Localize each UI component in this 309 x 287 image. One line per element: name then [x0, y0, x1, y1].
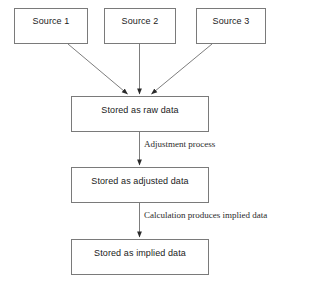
- node-source-2-label: Source 2: [122, 9, 159, 27]
- node-stored-adjusted-data-label: Stored as adjusted data: [91, 168, 188, 187]
- node-stored-raw-data: Stored as raw data: [71, 96, 209, 132]
- edge-label-calculation-produces-implied-data: Calculation produces implied data: [144, 210, 267, 221]
- node-source-1: Source 1: [14, 8, 88, 44]
- node-stored-adjusted-data: Stored as adjusted data: [71, 167, 209, 203]
- edge-label-adjustment-process: Adjustment process: [144, 139, 215, 150]
- node-stored-implied-data-label: Stored as implied data: [94, 240, 186, 259]
- node-stored-implied-data: Stored as implied data: [71, 239, 209, 275]
- node-source-3: Source 3: [196, 8, 266, 44]
- flowchart-diagram: Source 1 Source 2 Source 3 Stored as raw…: [0, 0, 309, 287]
- node-source-2: Source 2: [104, 8, 176, 44]
- connector-source3-to-raw: [152, 44, 213, 94]
- node-source-3-label: Source 3: [213, 9, 250, 27]
- node-stored-raw-data-label: Stored as raw data: [101, 97, 178, 116]
- connector-source1-to-raw: [68, 44, 128, 94]
- node-source-1-label: Source 1: [33, 9, 70, 27]
